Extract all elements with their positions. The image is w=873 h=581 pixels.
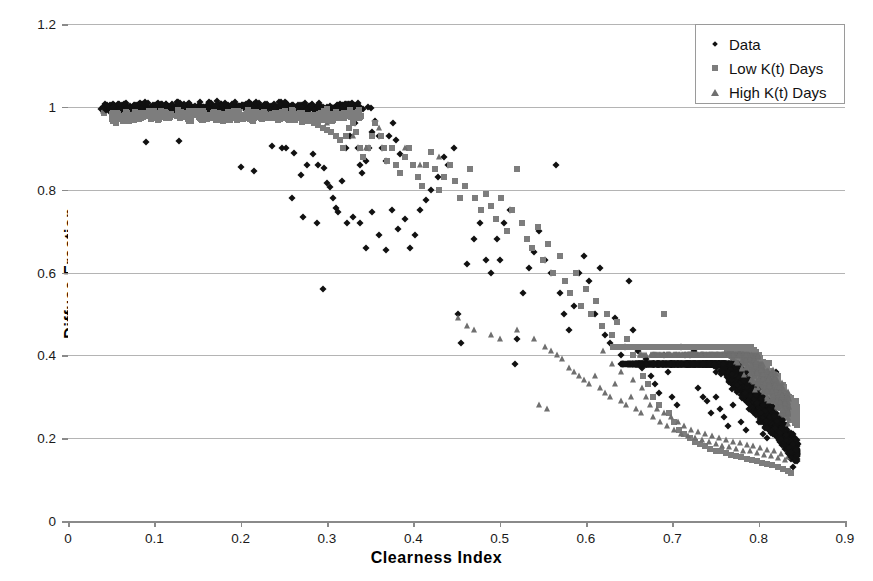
data-point <box>386 132 393 139</box>
data-point <box>776 383 782 389</box>
data-point <box>747 371 753 377</box>
data-point <box>401 215 408 222</box>
data-point <box>531 335 537 341</box>
data-point <box>716 435 722 441</box>
data-point <box>657 418 663 424</box>
data-point <box>607 393 613 399</box>
x-tick-label: 0.8 <box>749 531 768 546</box>
gridline <box>68 190 845 191</box>
data-point <box>338 178 345 185</box>
data-point <box>673 401 680 408</box>
data-point <box>733 359 739 365</box>
data-point <box>310 151 317 158</box>
data-point <box>628 393 634 399</box>
data-point <box>337 115 343 121</box>
legend-item-high-kt[interactable]: High K(t) Days <box>708 80 844 104</box>
data-point <box>671 426 677 432</box>
data-point <box>233 112 239 118</box>
data-point <box>457 339 464 346</box>
data-point <box>723 437 729 443</box>
data-point <box>661 311 667 317</box>
data-point <box>771 448 777 454</box>
data-point <box>713 441 719 447</box>
data-point <box>586 277 593 284</box>
data-point <box>423 162 429 168</box>
data-point <box>765 376 771 382</box>
x-tick-label: 0.7 <box>663 531 682 546</box>
data-point <box>394 225 401 232</box>
data-point <box>664 422 670 428</box>
data-point <box>375 232 382 239</box>
data-point <box>650 414 656 420</box>
data-point <box>343 219 350 226</box>
data-point <box>360 154 366 160</box>
x-tick-label: 0.1 <box>145 531 164 546</box>
data-point <box>664 368 671 375</box>
data-point <box>524 236 530 242</box>
legend-item-low-kt[interactable]: Low K(t) Days <box>708 56 844 80</box>
data-point <box>500 219 507 226</box>
data-point <box>725 422 732 429</box>
data-point <box>497 335 503 341</box>
data-point <box>335 209 342 216</box>
data-point <box>363 145 369 151</box>
data-point <box>586 381 592 387</box>
data-point <box>562 278 568 284</box>
data-point <box>313 219 320 226</box>
data-point <box>163 110 169 116</box>
data-point <box>679 352 685 358</box>
data-point <box>111 117 117 123</box>
x-tick-mark <box>327 521 329 527</box>
data-point <box>225 112 231 118</box>
data-point <box>276 115 282 121</box>
data-point <box>320 165 327 172</box>
data-point <box>630 352 636 358</box>
data-point <box>393 162 399 168</box>
y-tick-mark <box>62 273 68 275</box>
data-point <box>557 290 564 297</box>
data-point <box>741 344 747 350</box>
data-point <box>626 277 633 284</box>
data-point <box>258 113 264 119</box>
data-point <box>725 344 731 350</box>
data-point <box>402 145 408 151</box>
data-point <box>268 143 275 150</box>
data-point <box>343 133 349 139</box>
data-point <box>609 332 615 338</box>
data-point <box>340 145 346 151</box>
legend-label: Data <box>729 36 761 53</box>
data-point <box>382 246 389 253</box>
data-point <box>617 352 624 359</box>
data-point <box>496 257 503 264</box>
data-point <box>155 112 161 118</box>
data-point <box>237 163 244 170</box>
data-point <box>450 145 457 152</box>
data-point <box>596 265 603 272</box>
data-point <box>654 344 660 350</box>
data-point <box>417 161 423 167</box>
x-tick-label: 0.5 <box>490 531 509 546</box>
data-point <box>289 194 296 201</box>
data-point <box>630 377 636 383</box>
data-point <box>599 323 605 329</box>
data-point <box>423 196 430 203</box>
data-point <box>299 116 305 122</box>
data-point <box>667 352 673 358</box>
data-point <box>436 187 442 193</box>
data-point <box>738 418 745 425</box>
legend-item-data[interactable]: Data <box>708 32 844 56</box>
data-point <box>397 170 403 176</box>
data-point <box>436 153 442 159</box>
data-point <box>388 207 395 214</box>
data-point <box>706 439 712 445</box>
data-point <box>304 161 311 168</box>
data-point <box>604 311 610 317</box>
data-point <box>703 397 710 404</box>
data-point <box>209 113 215 119</box>
data-point <box>652 381 659 388</box>
x-tick-mark <box>845 521 847 527</box>
data-point <box>298 172 305 179</box>
data-point <box>779 391 785 397</box>
data-point <box>478 207 484 213</box>
data-point <box>319 286 326 293</box>
